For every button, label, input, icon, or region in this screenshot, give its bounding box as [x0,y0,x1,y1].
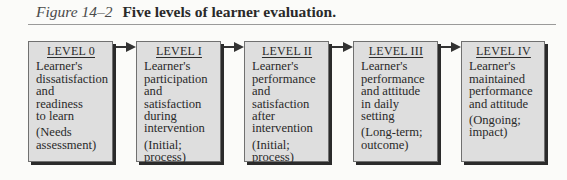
desc-line: and attitude [361,85,431,97]
note-line: process) [252,151,322,163]
level-2-box: LEVEL II Learner's performance and satis… [244,41,329,162]
desc-line: setting [361,110,431,122]
figure-label: Figure 14–2 [36,3,113,20]
level-2-title: LEVEL II [252,45,322,57]
desc-line: Learner's [252,60,322,72]
level-0-box: LEVEL 0 Learner's dissatisfaction and re… [28,41,113,162]
note-line: (Long-term; [361,126,431,138]
level-4-box: LEVEL IV Learner's maintained performanc… [461,41,545,162]
desc-line: and attitude [469,98,538,110]
desc-line: performance [469,85,538,97]
level-1-note: (Initial; process) [144,139,214,164]
level-3-title: LEVEL III [361,45,431,57]
level-1-title: LEVEL I [144,45,214,57]
desc-line: Learner's [144,60,214,72]
desc-line: intervention [252,122,322,134]
level-4-note: (Ongoing; impact) [469,114,538,139]
figure-title: Figure 14–2 Five levels of learner evalu… [36,3,336,21]
arrow-1-to-2 [224,46,242,48]
level-0-title: LEVEL 0 [36,45,106,57]
arrow-2-to-3 [332,46,351,48]
desc-line: Learner's [361,60,431,72]
desc-line: intervention [144,122,214,134]
arrow-3-to-4 [441,46,459,48]
desc-line: Learner's [469,60,538,72]
note-line: process) [144,151,214,163]
note-line: (Needs [36,126,106,138]
title-divider [28,24,556,25]
level-3-note: (Long-term; outcome) [361,126,431,151]
level-4-description: Learner's maintained performance and att… [469,60,538,110]
level-3-description: Learner's performance and attitude in da… [361,60,431,122]
level-3-box: LEVEL III Learner's performance and atti… [353,41,438,162]
figure-caption: Five levels of learner evaluation. [122,3,336,20]
level-2-description: Learner's performance and satisfaction a… [252,60,322,134]
desc-line: and [252,85,322,97]
note-line: assessment) [36,139,106,151]
desc-line: and [36,85,106,97]
desc-line: Learner's [36,60,106,72]
level-0-description: Learner's dissatisfaction and readiness … [36,60,106,122]
level-1-description: Learner's participation and satisfaction… [144,60,214,134]
level-1-box: LEVEL I Learner's participation and sati… [136,41,221,162]
note-line: outcome) [361,139,431,151]
arrow-0-to-1 [116,46,134,48]
desc-line: and [144,85,214,97]
level-4-title: LEVEL IV [469,45,538,57]
level-0-note: (Needs assessment) [36,126,106,151]
desc-line: to learn [36,110,106,122]
note-line: impact) [469,126,538,138]
level-2-note: (Initial; process) [252,139,322,164]
